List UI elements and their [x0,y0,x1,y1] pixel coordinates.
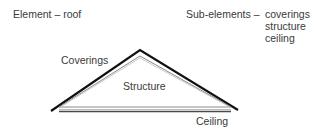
coverings-label: Coverings [61,54,108,66]
ceiling-label: Ceiling [196,115,228,127]
structure-label: Structure [123,80,166,92]
roof-diagram [0,0,325,133]
